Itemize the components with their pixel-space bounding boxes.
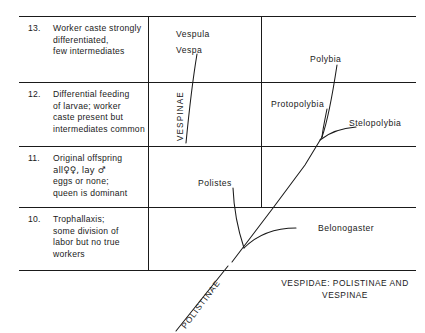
row-number-11: 11. [28, 153, 40, 165]
taxon-label-protopolybia: Protopolybia [271, 99, 324, 111]
phylogeny-figure: 13. Worker caste stronglydifferentiated,… [0, 0, 425, 333]
taxon-label-vespa: Vespa [176, 45, 202, 57]
taxon-label-polybia: Polybia [310, 54, 341, 66]
row-description-13: Worker caste stronglydifferentiated,few … [53, 23, 141, 58]
row-description-10: Trophallaxis;some division oflabor but n… [53, 214, 120, 260]
taxon-label-belonogaster: Belonogaster [318, 223, 374, 235]
branch-vespinae [186, 54, 197, 143]
row-description-12: Differential feedingof larvae; workercas… [53, 89, 145, 135]
taxon-label-vespula: Vespula [176, 29, 210, 41]
branch-polistes [233, 188, 244, 248]
row-description-11: Original offspringall♀♀, lay ♂eggs or no… [53, 153, 127, 199]
taxon-label-stelopolybia: Stelopolybia [349, 118, 401, 130]
row-number-12: 12. [28, 89, 41, 101]
branch-polybia [322, 65, 337, 137]
trunk-polistinae [232, 137, 322, 262]
taxon-label-polistes: Polistes [198, 178, 232, 190]
branch-belonogaster [244, 228, 296, 248]
row-number-13: 13. [28, 23, 41, 35]
subfamily-label-vespinae: VESPINAE [176, 91, 185, 141]
figure-caption: VESPIDAE: POLISTINAE ANDVESPINAE [276, 277, 414, 301]
row-number-10: 10. [28, 214, 41, 226]
